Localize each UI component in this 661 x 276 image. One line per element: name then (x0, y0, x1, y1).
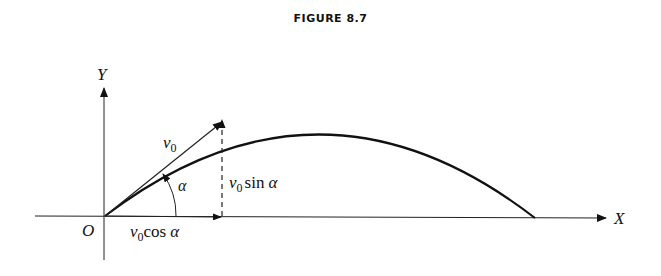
x-axis-label: X (613, 209, 625, 228)
projectile-diagram: Y X O v0 α v0sinα v0cosα (0, 0, 661, 276)
angle-arc (163, 174, 176, 216)
alpha-label: α (178, 177, 187, 194)
origin-label: O (82, 221, 94, 240)
y-axis-label: Y (97, 65, 108, 84)
v0-cos-alpha-label: v0cosα (130, 222, 180, 244)
v0-label: v0 (163, 133, 177, 155)
v0-sin-alpha-label: v0sinα (229, 173, 278, 195)
